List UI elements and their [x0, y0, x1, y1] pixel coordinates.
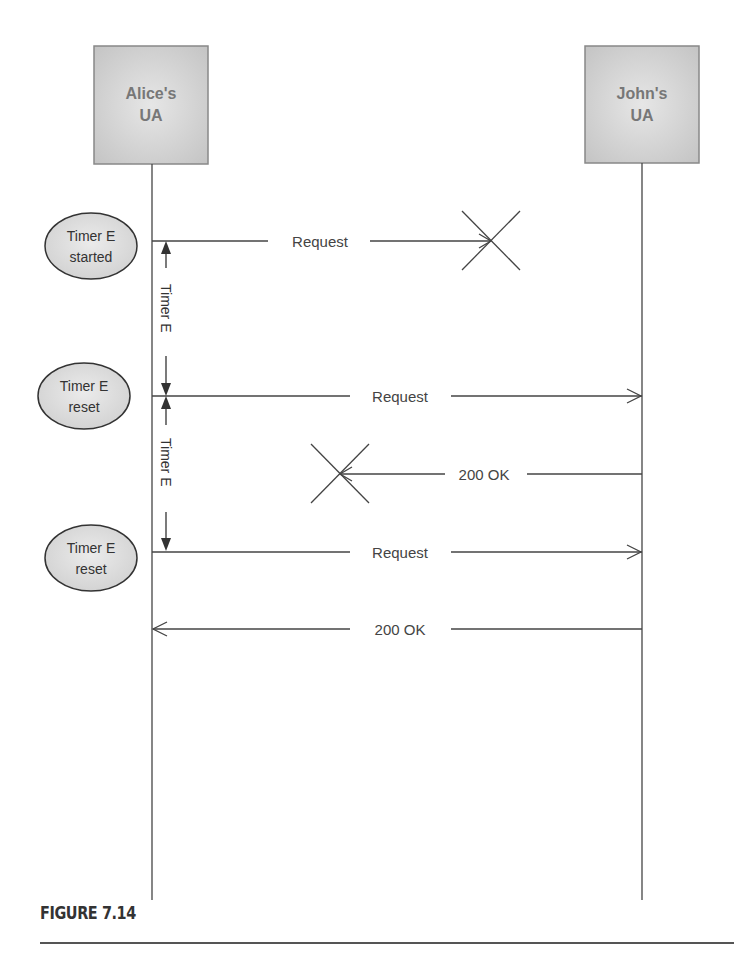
- sequence-diagram: Alice's UA John's UA Timer E started Tim…: [0, 0, 734, 973]
- figure-caption: FIGURE 7.14: [40, 903, 136, 923]
- svg-text:reset: reset: [75, 561, 106, 577]
- caption-rule: [40, 942, 734, 944]
- svg-text:Timer E: Timer E: [60, 378, 108, 394]
- message-label: Request: [292, 233, 349, 250]
- svg-text:started: started: [70, 249, 113, 265]
- timer-interval-1: Timer E: [158, 241, 174, 396]
- message-label: Request: [372, 388, 429, 405]
- state-timer-e-reset-1: Timer E reset: [38, 363, 130, 429]
- actor-john-line2: UA: [630, 107, 654, 124]
- svg-text:Timer E: Timer E: [67, 540, 115, 556]
- timer-label: Timer E: [158, 438, 174, 486]
- actor-john-ua: John's UA: [585, 46, 699, 163]
- timer-interval-2: Timer E: [158, 396, 174, 551]
- message-label: 200 OK: [459, 466, 510, 483]
- message-label: 200 OK: [375, 621, 426, 638]
- actor-alice-ua: Alice's UA: [94, 46, 208, 164]
- timer-label: Timer E: [158, 284, 174, 332]
- state-timer-e-started: Timer E started: [45, 213, 137, 279]
- state-timer-e-reset-2: Timer E reset: [45, 525, 137, 591]
- actor-john-line1: John's: [617, 85, 668, 102]
- svg-text:reset: reset: [68, 399, 99, 415]
- svg-text:Timer E: Timer E: [67, 228, 115, 244]
- message-label: Request: [372, 544, 429, 561]
- actor-alice-line1: Alice's: [126, 85, 177, 102]
- actor-alice-line2: UA: [139, 107, 163, 124]
